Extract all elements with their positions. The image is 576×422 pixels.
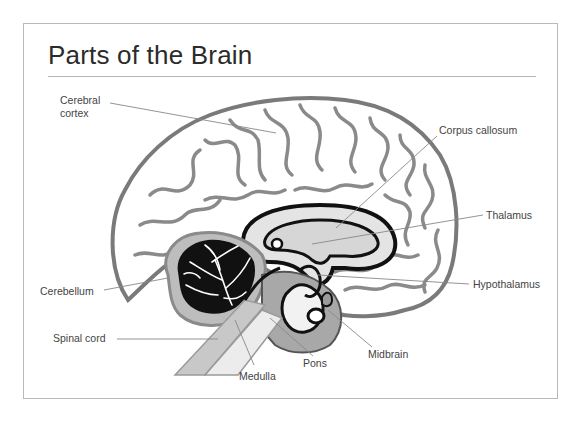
- label-pons: Pons: [303, 357, 327, 370]
- label-cerebellum: Cerebellum: [40, 285, 94, 298]
- label-medulla: Medulla: [239, 370, 276, 383]
- label-corpus-callosum: Corpus callosum: [439, 124, 517, 137]
- label-hypothalamus: Hypothalamus: [473, 278, 540, 291]
- label-spinal-cord: Spinal cord: [53, 332, 106, 345]
- label-cerebral-cortex: Cerebral cortex: [60, 94, 100, 120]
- label-thalamus: Thalamus: [486, 209, 532, 222]
- label-midbrain: Midbrain: [368, 348, 408, 361]
